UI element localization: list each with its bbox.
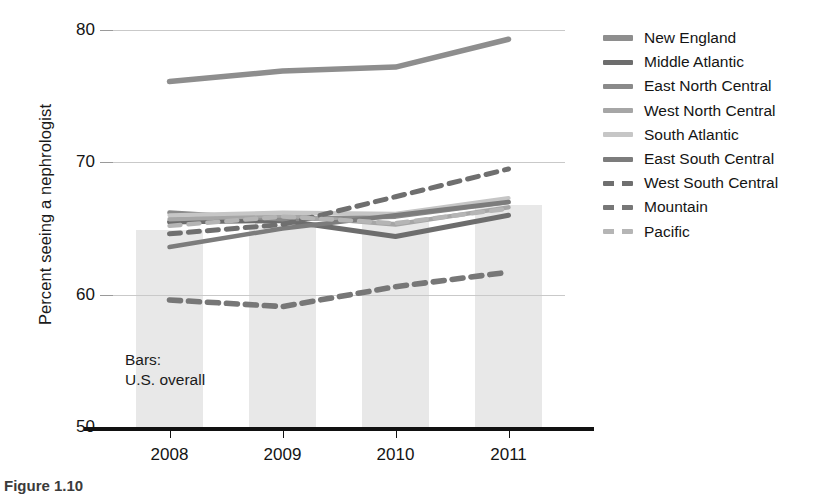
x-tick-mark-2008: [170, 427, 172, 438]
legend-label-mountain: Mountain: [644, 198, 708, 216]
figure-caption: Figure 1.10: [4, 477, 83, 499]
x-tick-mark-2009: [283, 427, 285, 438]
legend-item-east-north-central[interactable]: East North Central: [603, 74, 813, 98]
legend-swatch-icon-pacific: [603, 229, 633, 234]
legend-item-new-england[interactable]: New England: [603, 26, 813, 50]
legend-label-west-north-central: West North Central: [644, 102, 776, 120]
x-tick-mark-2011: [509, 427, 511, 438]
legend-swatch-icon-mountain: [603, 205, 633, 211]
x-tick-mark-2010: [396, 427, 398, 438]
legend-item-pacific[interactable]: Pacific: [603, 220, 813, 244]
legend-label-east-south-central: East South Central: [644, 150, 774, 168]
legend-item-south-atlantic[interactable]: South Atlantic: [603, 123, 813, 147]
annotation-line-2: U.S. overall: [125, 370, 205, 390]
annotation-line-1: Bars:: [125, 350, 205, 370]
y-axis-title: Percent seeing a nephrologist: [36, 20, 55, 410]
y-tick-label-70: 70: [76, 152, 95, 172]
caption-text: Figure 1.10: [4, 477, 83, 494]
legend-item-west-south-central[interactable]: West South Central: [603, 171, 813, 195]
legend-swatch-icon-south-atlantic: [603, 132, 633, 137]
figure-container: Percent seeing a nephrologist 50607080 B…: [0, 0, 814, 499]
x-tick-label-2010: 2010: [377, 445, 415, 465]
y-tick-mark-60: [100, 295, 113, 296]
legend-item-mountain[interactable]: Mountain: [603, 195, 813, 219]
legend-label-south-atlantic: South Atlantic: [644, 126, 739, 144]
legend-item-middle-atlantic[interactable]: Middle Atlantic: [603, 50, 813, 74]
legend-item-west-north-central[interactable]: West North Central: [603, 99, 813, 123]
x-tick-label-2011: 2011: [490, 445, 527, 465]
y-tick-label-60: 60: [76, 285, 95, 305]
legend-swatch-icon-east-south-central: [603, 157, 633, 162]
y-tick-mark-80: [100, 30, 113, 31]
x-tick-label-2008: 2008: [151, 445, 189, 465]
legend-swatch-icon-new-england: [603, 35, 633, 41]
legend: New EnglandMiddle AtlanticEast North Cen…: [603, 26, 813, 244]
legend-label-new-england: New England: [644, 29, 736, 47]
plot-area: 50607080 Bars: U.S. overall 200820092010…: [113, 30, 565, 427]
x-tick-label-2009: 2009: [264, 445, 302, 465]
legend-swatch-icon-west-north-central: [603, 108, 633, 113]
legend-swatch-icon-west-south-central: [603, 181, 633, 186]
series-line-mountain: [170, 272, 509, 306]
y-tick-label-80: 80: [76, 20, 95, 40]
legend-swatch-icon-east-north-central: [603, 84, 633, 89]
legend-item-east-south-central[interactable]: East South Central: [603, 147, 813, 171]
legend-label-east-north-central: East North Central: [644, 77, 772, 95]
legend-label-pacific: Pacific: [644, 223, 690, 241]
y-tick-mark-70: [100, 162, 113, 163]
legend-label-west-south-central: West South Central: [644, 174, 778, 192]
legend-label-middle-atlantic: Middle Atlantic: [644, 53, 744, 71]
bars-annotation: Bars: U.S. overall: [125, 350, 205, 390]
x-axis-line: [84, 427, 594, 431]
series-line-new-england: [170, 39, 509, 81]
legend-swatch-icon-middle-atlantic: [603, 60, 633, 65]
